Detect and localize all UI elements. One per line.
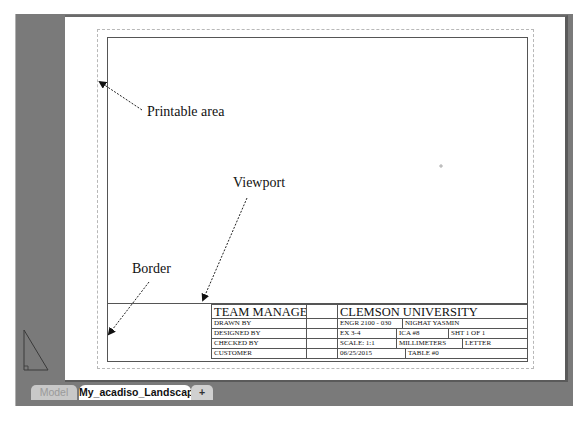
ucs-icon [18,326,54,374]
blank-cell [306,304,338,319]
viewport-label: Viewport [233,175,285,191]
date-cell: 06/25/2015 [337,348,406,359]
crosshair-cursor-icon [439,164,443,168]
border-label: Border [132,261,171,277]
blank-cell [306,348,338,359]
university-cell: CLEMSON UNIVERSITY [337,304,528,319]
printable-area-label: Printable area [147,104,224,120]
tab-my-acadiso-landscape[interactable]: My_acadiso_Landscape [79,385,191,400]
layout-tab-bar: Model My_acadiso_Landscape + [15,383,572,403]
customer-cell: CUSTOMER [211,348,307,359]
add-layout-button[interactable]: + [191,385,213,400]
tab-model[interactable]: Model [31,385,77,400]
team-manager-cell: TEAM MANAGER [211,304,307,319]
table-cell: TABLE #0 [405,348,528,359]
